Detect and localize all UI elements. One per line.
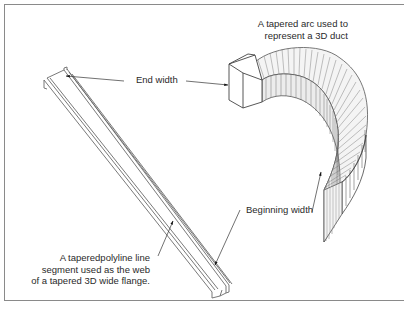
- beginning-width-label: Beginning width: [246, 204, 313, 216]
- flange-caption-line-3: of a tapered 3D wide flange.: [30, 275, 150, 287]
- duct-caption-line-1: A tapered arc used to: [238, 18, 348, 30]
- duct-caption-line-2: represent a 3D duct: [238, 30, 348, 42]
- end-width-label: End width: [136, 74, 178, 86]
- flange-caption-line-2: segment used as the web: [30, 264, 150, 276]
- leader-lines: [66, 76, 321, 265]
- flange-caption: A taperedpolyline line segment used as t…: [30, 252, 150, 287]
- flange-caption-line-1: A taperedpolyline line: [30, 252, 150, 264]
- duct-caption: A tapered arc used to represent a 3D duc…: [238, 18, 348, 41]
